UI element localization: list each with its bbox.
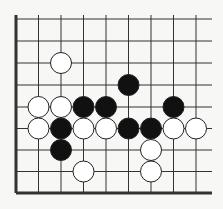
black-stone [51,140,72,161]
white-stone [163,118,184,139]
white-stone [96,118,117,139]
white-stone [51,53,72,74]
white-stone [73,161,94,182]
black-stone [163,97,184,118]
white-stone [73,118,94,139]
white-stone [141,140,162,161]
black-stone [73,97,94,118]
white-stone [28,97,49,118]
white-stone [51,97,72,118]
black-stone [141,118,162,139]
black-stone [118,75,139,96]
white-stone [141,161,162,182]
stones-layer [28,53,207,183]
black-stone [96,97,117,118]
black-stone [51,118,72,139]
white-stone [186,118,207,139]
black-stone [118,118,139,139]
white-stone [28,118,49,139]
go-board[interactable] [0,0,223,209]
